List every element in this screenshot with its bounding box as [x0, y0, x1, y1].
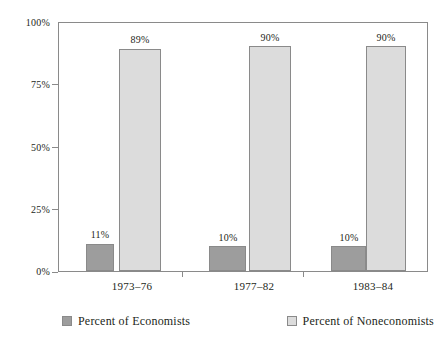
- x-axis: 1973–76 1977–82 1983–84: [58, 280, 428, 302]
- bar-economist-1973-76[interactable]: [86, 244, 114, 272]
- y-tick-label-25: 25%: [0, 204, 50, 215]
- y-tick-label-75: 75%: [0, 79, 50, 90]
- legend-label-economists: Percent of Economists: [78, 314, 190, 329]
- y-tick-label-100: 100%: [0, 17, 50, 28]
- bar-value-economist-1977-82: 10%: [204, 232, 252, 243]
- y-axis: 100% 75% 50% 25% 0%: [0, 0, 52, 345]
- x-tick-mark-sep-1: [182, 272, 183, 277]
- x-tick-label-1983-84: 1983–84: [318, 280, 428, 292]
- bar-value-noneconomist-1983-84: 90%: [362, 32, 410, 43]
- chart-legend: Percent of Economists Percent of Nonecon…: [58, 310, 438, 332]
- bar-noneconomist-1977-82[interactable]: [249, 46, 291, 271]
- bar-noneconomist-1983-84[interactable]: [366, 46, 406, 271]
- x-tick-label-1973-76: 1973–76: [77, 280, 187, 292]
- bar-value-noneconomist-1977-82: 90%: [246, 32, 294, 43]
- x-tick-mark-sep-2: [303, 272, 304, 277]
- plot-area: 11% 89% 10% 90% 10% 90%: [58, 22, 428, 272]
- legend-item-noneconomists[interactable]: Percent of Noneconomists: [287, 314, 434, 329]
- bar-value-noneconomist-1973-76: 89%: [116, 34, 164, 45]
- y-tick-mark-0: [52, 272, 58, 273]
- bar-economist-1977-82[interactable]: [209, 246, 246, 271]
- y-tick-label-50: 50%: [0, 142, 50, 153]
- legend-swatch-icon-economists: [62, 316, 72, 326]
- bar-value-economist-1973-76: 11%: [76, 229, 124, 240]
- legend-swatch-icon-noneconomists: [287, 316, 297, 326]
- legend-item-economists[interactable]: Percent of Economists: [62, 314, 190, 329]
- legend-label-noneconomists: Percent of Noneconomists: [303, 314, 434, 329]
- chart-container: 100% 75% 50% 25% 0% 11% 89% 10% 90% 10% …: [0, 0, 443, 345]
- x-tick-label-1977-82: 1977–82: [199, 280, 309, 292]
- bar-economist-1983-84[interactable]: [331, 246, 366, 271]
- y-tick-label-0: 0%: [0, 266, 50, 277]
- bar-noneconomist-1973-76[interactable]: [119, 49, 161, 272]
